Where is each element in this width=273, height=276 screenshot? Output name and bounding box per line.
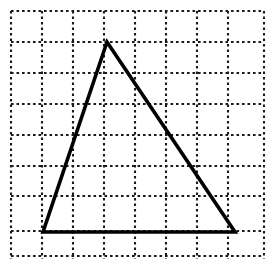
figure-container: Triangle drawn on a dotted square grid	[0, 0, 273, 276]
triangle-grid-figure	[0, 0, 273, 276]
